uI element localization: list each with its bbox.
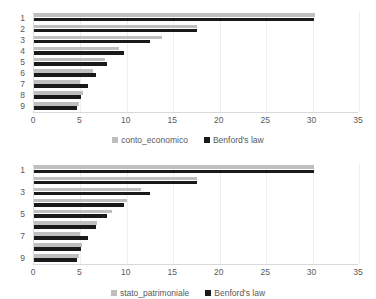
bar-group-1 (34, 12, 359, 23)
bar-group-3 (34, 34, 359, 45)
bar-series-2 (34, 177, 197, 181)
bar-benford-8 (34, 247, 81, 251)
x-tick-label-35: 35 (353, 116, 362, 125)
y-tick-label-3: 3 (20, 188, 25, 197)
legend-label: Benford's law (214, 289, 265, 298)
x-tick-label-0: 0 (31, 268, 36, 277)
bar-group-5 (34, 208, 359, 219)
bar-series-3 (34, 188, 141, 192)
y-tick-label-9: 9 (20, 102, 25, 111)
x-tick-label-10: 10 (121, 116, 130, 125)
y-tick-label-5: 5 (20, 210, 25, 219)
chart-conto-economico: 123456789 05101520253035 conto_economico… (0, 0, 376, 150)
x-tick-label-15: 15 (168, 116, 177, 125)
legend-label: Benford's law (213, 136, 264, 145)
plot-area-top (33, 12, 359, 112)
bar-rows-top (34, 12, 359, 112)
x-tick-label-5: 5 (77, 268, 82, 277)
bar-benford-7 (34, 84, 88, 88)
bar-group-2 (34, 23, 359, 34)
chart-stato-patrimoniale: 13579 05101520253035 stato_patrimonialeB… (0, 150, 376, 299)
bar-series-1 (34, 165, 314, 169)
bar-series-7 (34, 232, 80, 236)
bar-series-4 (34, 47, 119, 51)
bar-group-2 (34, 175, 359, 186)
legend-bottom: stato_patrimonialeBenford's law (0, 286, 376, 299)
legend-top: conto_economicoBenford's law (0, 133, 376, 147)
bar-series-5 (34, 58, 105, 62)
bar-series-1 (34, 13, 315, 17)
bar-series-2 (34, 25, 197, 29)
y-tick-label-2: 2 (20, 24, 25, 33)
bar-group-4 (34, 45, 359, 56)
bar-series-9 (34, 254, 79, 258)
bar-series-7 (34, 80, 80, 84)
legend-item-benford[interactable]: Benford's law (204, 136, 264, 145)
x-tick-label-5: 5 (77, 116, 82, 125)
y-tick-label-7: 7 (20, 80, 25, 89)
legend-swatch-icon (204, 137, 210, 143)
x-tick-label-30: 30 (307, 268, 316, 277)
bar-group-4 (34, 197, 359, 208)
bar-series-6 (34, 221, 97, 225)
bar-benford-8 (34, 95, 81, 99)
gridline (359, 12, 360, 112)
x-axis-line-bottom (33, 264, 358, 265)
bar-benford-2 (34, 181, 197, 185)
bar-series-6 (34, 69, 93, 73)
bar-benford-5 (34, 62, 107, 66)
bar-group-1 (34, 164, 359, 175)
bar-series-5 (34, 210, 112, 214)
bar-group-5 (34, 56, 359, 67)
bar-group-7 (34, 79, 359, 90)
y-tick-label-1: 1 (20, 165, 25, 174)
x-tick-label-25: 25 (260, 116, 269, 125)
bar-group-9 (34, 101, 359, 112)
x-tick-label-10: 10 (121, 268, 130, 277)
y-tick-label-6: 6 (20, 69, 25, 78)
y-tick-label-9: 9 (20, 254, 25, 263)
legend-swatch-icon (112, 137, 118, 143)
x-tick-label-0: 0 (31, 116, 36, 125)
legend-label: conto_economico (121, 136, 188, 145)
bar-benford-7 (34, 236, 88, 240)
bar-group-3 (34, 186, 359, 197)
bar-benford-6 (34, 225, 96, 229)
legend-swatch-icon (205, 290, 211, 296)
bar-group-8 (34, 242, 359, 253)
bar-benford-6 (34, 73, 96, 77)
x-tick-label-20: 20 (214, 116, 223, 125)
y-tick-label-4: 4 (20, 47, 25, 56)
plot-area-bottom (33, 164, 359, 264)
legend-item-benford[interactable]: Benford's law (205, 289, 265, 298)
bar-series-8 (34, 91, 83, 95)
x-tick-label-35: 35 (353, 268, 362, 277)
bar-benford-3 (34, 40, 150, 44)
x-axis-labels-bottom: 05101520253035 (0, 268, 376, 282)
bar-group-9 (34, 253, 359, 264)
x-tick-label-20: 20 (214, 268, 223, 277)
bar-benford-5 (34, 214, 107, 218)
legend-item-series[interactable]: conto_economico (112, 136, 188, 145)
bar-benford-4 (34, 203, 124, 207)
bar-series-4 (34, 199, 127, 203)
bar-benford-1 (34, 18, 314, 22)
y-axis-labels-top: 123456789 (0, 12, 29, 112)
gridline (359, 164, 360, 264)
legend-swatch-icon (111, 290, 117, 296)
legend-item-series[interactable]: stato_patrimoniale (111, 289, 189, 298)
bar-group-6 (34, 68, 359, 79)
y-axis-labels-bottom: 13579 (0, 164, 29, 264)
bar-benford-9 (34, 258, 77, 262)
bar-series-9 (34, 102, 79, 106)
y-tick-label-7: 7 (20, 232, 25, 241)
bar-series-3 (34, 36, 162, 40)
y-tick-label-8: 8 (20, 91, 25, 100)
y-tick-label-3: 3 (20, 36, 25, 45)
bar-group-6 (34, 220, 359, 231)
bar-rows-bottom (34, 164, 359, 264)
bar-benford-4 (34, 51, 124, 55)
bar-group-7 (34, 231, 359, 242)
bar-benford-3 (34, 192, 150, 196)
legend-label: stato_patrimoniale (120, 289, 189, 298)
